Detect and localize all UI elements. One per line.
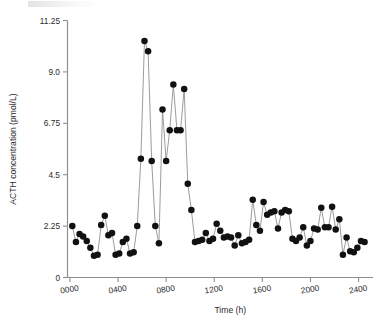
data-point bbox=[94, 251, 101, 258]
data-point bbox=[159, 106, 166, 113]
x-axis-tick-label: 2400 bbox=[348, 283, 368, 296]
data-point bbox=[271, 208, 278, 215]
x-axis-tick-label: 0400 bbox=[108, 283, 128, 296]
y-axis-tick-label: 11.25 bbox=[40, 16, 61, 26]
y-axis-tick-label: 6.75 bbox=[44, 118, 61, 128]
data-point bbox=[253, 222, 260, 229]
data-point bbox=[148, 158, 155, 165]
data-point bbox=[235, 232, 242, 239]
x-axis-tick-label: 0000 bbox=[60, 283, 80, 296]
x-axis-tick-label: 0800 bbox=[156, 283, 176, 296]
data-point bbox=[145, 48, 152, 55]
y-axis-title: ACTH concentration (pmol/L) bbox=[8, 93, 18, 204]
data-point bbox=[177, 127, 184, 134]
data-point bbox=[163, 158, 170, 165]
data-point bbox=[185, 181, 192, 188]
data-point bbox=[130, 249, 137, 256]
data-point bbox=[109, 230, 116, 237]
data-point bbox=[260, 199, 267, 206]
data-point bbox=[123, 235, 130, 242]
data-point bbox=[332, 226, 339, 233]
data-point bbox=[329, 203, 336, 210]
data-point bbox=[286, 208, 293, 215]
x-axis-tick-label: 1600 bbox=[252, 283, 272, 296]
data-point bbox=[166, 127, 173, 134]
data-point bbox=[170, 81, 177, 88]
data-point bbox=[83, 238, 90, 245]
acth-concentration-line-chart: 02.254.56.759.011.2500000400080012001600… bbox=[0, 0, 382, 321]
data-point bbox=[156, 240, 163, 247]
data-point bbox=[361, 239, 368, 246]
data-point bbox=[210, 235, 217, 242]
data-point bbox=[231, 242, 238, 249]
data-point bbox=[152, 223, 159, 230]
y-axis-tick-label: 2.25 bbox=[44, 221, 61, 231]
data-point bbox=[275, 225, 282, 232]
x-axis-tick-label: 1200 bbox=[204, 283, 224, 296]
data-point bbox=[203, 230, 210, 237]
data-point bbox=[134, 223, 141, 230]
data-point bbox=[314, 226, 321, 233]
data-point bbox=[69, 223, 76, 230]
data-point bbox=[343, 234, 350, 241]
data-point bbox=[141, 38, 148, 45]
data-point bbox=[228, 234, 235, 241]
data-point bbox=[73, 239, 80, 246]
y-axis-tick-label: 0 bbox=[55, 273, 60, 283]
x-axis-tick-label: 2000 bbox=[300, 283, 320, 296]
data-point bbox=[181, 86, 188, 93]
data-point bbox=[300, 224, 307, 231]
data-point bbox=[213, 221, 220, 228]
data-point bbox=[318, 205, 325, 212]
y-axis-tick-label: 9.0 bbox=[48, 67, 60, 77]
data-point bbox=[325, 224, 332, 231]
data-point bbox=[199, 237, 206, 244]
data-point bbox=[138, 155, 145, 162]
chart-figure: 02.254.56.759.011.2500000400080012001600… bbox=[0, 0, 382, 321]
data-point bbox=[116, 250, 123, 257]
data-point bbox=[340, 251, 347, 258]
data-point bbox=[188, 207, 195, 214]
data-point bbox=[102, 213, 109, 220]
data-point bbox=[354, 245, 361, 252]
data-point bbox=[249, 197, 256, 204]
y-axis-tick-label: 4.5 bbox=[48, 170, 60, 180]
data-point bbox=[217, 227, 224, 234]
data-point bbox=[98, 222, 105, 229]
data-point bbox=[246, 237, 253, 244]
x-axis-title: Time (h) bbox=[214, 305, 246, 315]
data-point bbox=[257, 227, 264, 234]
data-point bbox=[296, 234, 303, 241]
data-point bbox=[307, 238, 314, 245]
data-point bbox=[87, 245, 94, 252]
data-point bbox=[336, 216, 343, 223]
